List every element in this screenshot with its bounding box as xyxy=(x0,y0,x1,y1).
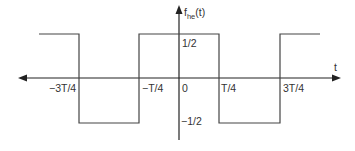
tick-label-t4: T/4 xyxy=(221,82,236,94)
x-axis-left-arrow-icon xyxy=(18,75,27,82)
low-level-label: −1/2 xyxy=(181,115,202,127)
high-level-label: 1/2 xyxy=(182,37,197,49)
tick-label-neg-3t4: −3T/4 xyxy=(49,82,76,94)
tick-label-neg-t4: −T/4 xyxy=(142,82,163,94)
tick-label-3t4: 3T/4 xyxy=(283,82,304,94)
y-axis-up-arrow-icon xyxy=(176,5,183,14)
x-axis-right-arrow-icon xyxy=(332,75,341,82)
x-axis-label: t xyxy=(334,61,337,73)
function-label: fhe(t) xyxy=(184,6,205,21)
tick-label-zero: 0 xyxy=(182,82,188,94)
square-wave-diagram: fhe(t) t 1/2 −1/2 −3T/4 −T/4 0 T/4 3T/4 xyxy=(0,0,355,151)
